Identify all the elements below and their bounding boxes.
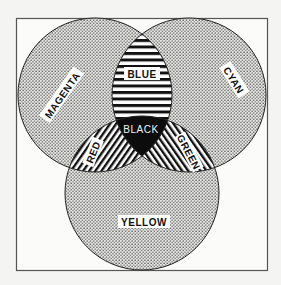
label-blue: BLUE [127, 69, 156, 80]
label-black: BLACK [123, 124, 158, 135]
label-yellow: YELLOW [121, 217, 167, 228]
venn-diagram: MAGENTA CYAN YELLOW BLUE RED GREEN BLACK [0, 0, 281, 285]
